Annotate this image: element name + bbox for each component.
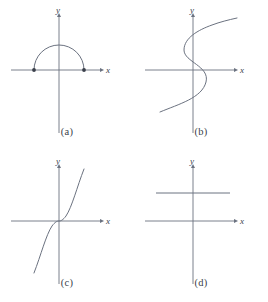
- sideways-s-curve-b: [160, 18, 237, 112]
- y-axis-label-b: y: [189, 5, 194, 15]
- x-axis-label-b: x: [239, 65, 244, 75]
- panel-caption-c: (c): [0, 277, 134, 288]
- endpoint-dot-left-a: [32, 68, 36, 72]
- x-axis-label-d: x: [239, 216, 244, 226]
- four-panel-graph-figure: x y (a) x y (b): [0, 0, 268, 302]
- y-axis-label-c: y: [55, 156, 60, 166]
- y-axis-label-a: y: [55, 5, 60, 15]
- panel-caption-d: (d): [134, 277, 268, 288]
- x-axis-label-a: x: [105, 65, 110, 75]
- panel-caption-b: (b): [134, 126, 268, 137]
- panel-a: x y (a): [0, 0, 134, 151]
- y-axis-label-d: y: [189, 156, 194, 166]
- x-axis-label-c: x: [105, 216, 110, 226]
- panel-b: x y (b): [134, 0, 268, 151]
- panel-caption-a: (a): [0, 126, 134, 137]
- endpoint-dot-right-a: [82, 68, 86, 72]
- panel-c: x y (c): [0, 151, 134, 302]
- panel-d: x y (d): [134, 151, 268, 302]
